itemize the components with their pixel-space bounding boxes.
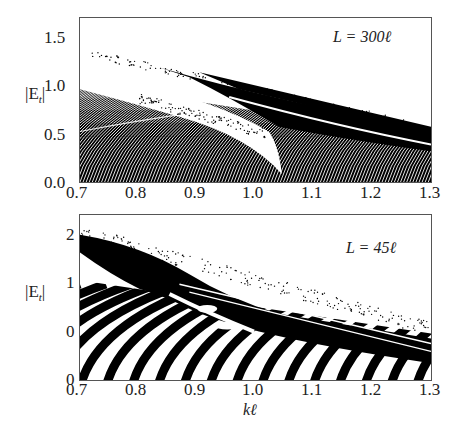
top-ylabel: |Et| <box>25 84 45 105</box>
bottom-xtick: 0.8 <box>125 381 146 398</box>
top-xtick: 1.1 <box>301 184 322 201</box>
top-xtick: 1.2 <box>360 184 381 201</box>
bottom-xtick: 1.3 <box>419 381 440 398</box>
bottom-xtick: 0.7 <box>66 381 87 398</box>
x-axis-label: kℓ <box>243 401 257 419</box>
bottom-ytick-2: 2 <box>66 226 75 243</box>
top-xtick: 1.0 <box>242 184 263 201</box>
bottom-xtick: 1.1 <box>301 381 322 398</box>
top-xtick: 1.3 <box>419 184 440 201</box>
annotation-length-45: L = 45ℓ <box>346 239 396 257</box>
top-xtick: 0.8 <box>125 184 146 201</box>
bottom-xtick: 1.2 <box>360 381 381 398</box>
top-xtick: 0.7 <box>66 184 87 201</box>
top-plot-area: L = 300ℓ <box>79 17 432 183</box>
top-ytick-0.0: 0.0 <box>44 174 65 191</box>
bottom-ytick-0: 0 <box>66 323 75 340</box>
top-ytick-1.0: 1.0 <box>44 77 65 94</box>
bottom-plot-area: L = 45ℓ <box>79 214 432 381</box>
bottom-xtick: 0.9 <box>184 381 205 398</box>
top-xtick: 0.9 <box>184 184 205 201</box>
top-ytick-1.5: 1.5 <box>44 29 65 46</box>
bottom-ytick-1: 1 <box>66 274 75 291</box>
bottom-ylabel: |Et| <box>25 282 45 303</box>
bottom-xtick: 1.0 <box>242 381 263 398</box>
top-ytick-0.5: 0.5 <box>44 126 65 143</box>
annotation-length-300: L = 300ℓ <box>333 28 391 46</box>
